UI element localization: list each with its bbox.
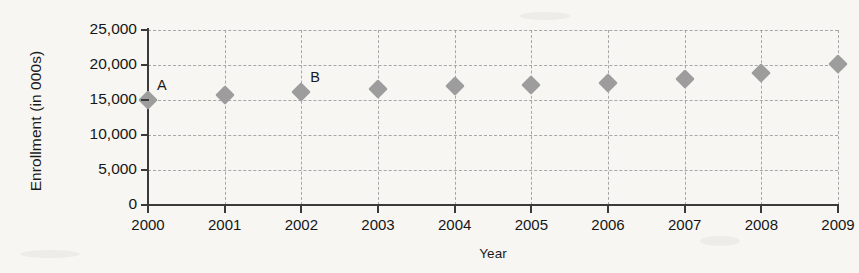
x-axis-tick — [454, 205, 456, 213]
y-axis-tick-label: 5,000 — [47, 160, 137, 178]
x-axis-tick — [530, 205, 532, 213]
gridline-horizontal — [148, 65, 838, 66]
y-axis-tick — [141, 64, 149, 66]
x-axis-line — [147, 204, 839, 206]
x-axis-tick-label: 2007 — [645, 216, 725, 233]
y-axis-tick-label: 10,000 — [47, 125, 137, 143]
gridline-vertical — [761, 30, 762, 205]
scan-blotch — [520, 12, 570, 20]
y-axis-tick — [141, 169, 149, 171]
gridline-vertical — [225, 30, 226, 205]
x-axis-tick-label: 2000 — [108, 216, 188, 233]
x-axis-tick — [837, 205, 839, 213]
x-axis-tick-label: 2006 — [568, 216, 648, 233]
gridline-horizontal — [148, 170, 838, 171]
y-axis-tick — [141, 99, 149, 101]
x-axis-tick — [224, 205, 226, 213]
x-axis-title: Year — [148, 246, 838, 261]
y-axis-tick — [141, 134, 149, 136]
x-axis-tick-label: 2002 — [261, 216, 341, 233]
x-axis-tick — [760, 205, 762, 213]
gridline-horizontal — [148, 135, 838, 136]
gridline-horizontal — [148, 30, 838, 31]
gridline-vertical — [378, 30, 379, 205]
x-axis-tick-label: 2009 — [798, 216, 859, 233]
y-axis-line — [147, 28, 149, 207]
plot-area — [148, 30, 838, 205]
x-axis-tick-label: 2001 — [185, 216, 265, 233]
x-axis-tick — [147, 205, 149, 213]
y-axis-tick — [141, 29, 149, 31]
y-axis-tick-label: 0 — [47, 195, 137, 213]
x-axis-tick — [607, 205, 609, 213]
x-axis-tick-label: 2005 — [491, 216, 571, 233]
x-axis-tick — [300, 205, 302, 213]
gridline-vertical — [685, 30, 686, 205]
scan-blotch — [700, 236, 740, 246]
gridline-horizontal — [148, 100, 838, 101]
x-axis-tick — [684, 205, 686, 213]
y-axis-tick-label: 25,000 — [47, 20, 137, 38]
x-axis-tick-label: 2008 — [721, 216, 801, 233]
gridline-vertical — [301, 30, 302, 205]
gridline-vertical — [455, 30, 456, 205]
data-point-annotation-b: B — [310, 69, 320, 85]
gridline-vertical — [531, 30, 532, 205]
y-axis-tick-label: 15,000 — [47, 90, 137, 108]
x-axis-tick-label: 2004 — [415, 216, 495, 233]
data-point-annotation-a: A — [157, 77, 167, 93]
gridline-vertical — [608, 30, 609, 205]
x-axis-tick — [377, 205, 379, 213]
x-axis-tick-label: 2003 — [338, 216, 418, 233]
y-axis-tick-label: 20,000 — [47, 55, 137, 73]
